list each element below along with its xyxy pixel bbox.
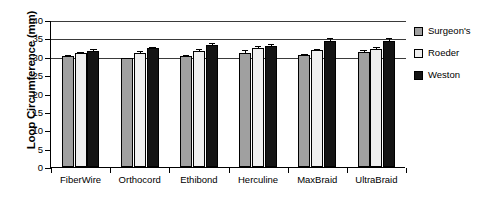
y-tick-label-0: 0 <box>17 163 43 173</box>
y-tick-20 <box>45 95 51 96</box>
y-tick-label-40: 40 <box>17 16 43 26</box>
y-tick-label-10: 10 <box>17 126 43 136</box>
legend-swatch-icon <box>414 49 423 58</box>
bar-herculine-weston <box>265 46 277 167</box>
y-tick-label-5: 5 <box>17 145 43 155</box>
error-bar-cap <box>373 47 379 48</box>
bar-ethibond-surgeons <box>180 56 192 167</box>
legend-swatch-icon <box>414 27 423 36</box>
error-bar-cap <box>183 55 189 56</box>
x-axis-label-ethibond: Ethibond <box>169 175 228 185</box>
x-tick-5 <box>347 168 348 173</box>
y-tick-label-20: 20 <box>17 90 43 100</box>
legend-item-weston: Weston <box>414 66 488 84</box>
error-bar-cap <box>301 54 307 55</box>
bar-chart-figure: Loop Circumference (mm) 0510152025303540… <box>0 0 490 205</box>
legend-swatch-icon <box>414 71 423 80</box>
error-bar-cap <box>242 50 248 51</box>
x-tick-1 <box>110 168 111 173</box>
error-bar-cap <box>149 47 155 48</box>
y-tick-25 <box>45 76 51 77</box>
legend-label: Surgeon's <box>428 26 470 36</box>
legend-item-surgeons: Surgeon's <box>414 22 488 40</box>
y-tick-40 <box>45 21 51 22</box>
error-bar-cap <box>65 55 71 56</box>
bar-fiberwire-roeder <box>75 53 87 167</box>
gridline-35 <box>51 39 406 40</box>
bar-orthocord-roeder <box>134 53 146 167</box>
error-bar-cap <box>314 49 320 50</box>
error-bar-cap <box>90 49 96 50</box>
bar-herculine-roeder <box>252 48 264 167</box>
x-axis-label-maxbraid: MaxBraid <box>288 175 347 185</box>
x-tick-2 <box>169 168 170 173</box>
x-axis-label-ultrabraid: UltraBraid <box>347 175 406 185</box>
y-tick-5 <box>45 150 51 151</box>
legend-label: Weston <box>428 70 460 80</box>
bar-maxbraid-weston <box>324 41 336 167</box>
bar-ultrabraid-surgeons <box>358 52 370 167</box>
y-tick-35 <box>45 39 51 40</box>
x-tick-4 <box>288 168 289 173</box>
error-bar-cap <box>137 51 143 52</box>
plot-area: 0510152025303540FiberWireOrthocordEthibo… <box>50 21 405 168</box>
y-tick-30 <box>45 58 51 59</box>
bar-ultrabraid-roeder <box>370 49 382 167</box>
x-tick-3 <box>229 168 230 173</box>
y-tick-10 <box>45 131 51 132</box>
y-tick-label-25: 25 <box>17 71 43 81</box>
bar-herculine-surgeons <box>239 53 251 167</box>
y-tick-label-15: 15 <box>17 108 43 118</box>
x-axis-label-orthocord: Orthocord <box>110 175 169 185</box>
legend-label: Roeder <box>428 48 459 58</box>
x-axis-label-fiberwire: FiberWire <box>51 175 110 185</box>
bar-fiberwire-weston <box>87 51 99 167</box>
bar-maxbraid-surgeons <box>298 55 310 167</box>
bar-orthocord-surgeons <box>121 58 133 167</box>
y-tick-label-35: 35 <box>17 34 43 44</box>
error-bar-cap <box>255 46 261 47</box>
error-bar-cap <box>77 52 83 53</box>
bar-maxbraid-roeder <box>311 50 323 167</box>
error-bar-cap <box>124 58 130 59</box>
y-tick-15 <box>45 113 51 114</box>
bar-ethibond-roeder <box>193 51 205 167</box>
gridline-40 <box>51 21 406 22</box>
bar-orthocord-weston <box>147 48 159 167</box>
x-tick-0 <box>51 168 52 173</box>
legend-item-roeder: Roeder <box>414 44 488 62</box>
chart-legend: Surgeon'sRoederWeston <box>414 22 488 88</box>
y-tick-label-30: 30 <box>17 53 43 63</box>
x-axis-label-herculine: Herculine <box>229 175 288 185</box>
bar-ethibond-weston <box>206 45 218 167</box>
error-bar-cap <box>268 44 274 45</box>
bar-ultrabraid-weston <box>383 41 395 167</box>
error-bar-cap <box>209 43 215 44</box>
bar-fiberwire-surgeons <box>62 56 74 167</box>
error-bar-cap <box>386 38 392 39</box>
error-bar-cap <box>196 49 202 50</box>
error-bar-cap <box>360 50 366 51</box>
x-tick-6 <box>406 168 407 173</box>
gridline-30 <box>51 58 406 59</box>
error-bar-cap <box>327 38 333 39</box>
